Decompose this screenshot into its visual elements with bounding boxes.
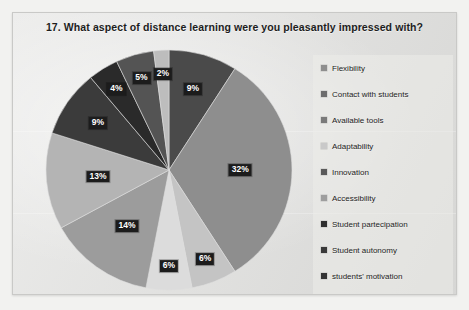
pie-data-label: 32% xyxy=(229,164,252,176)
legend-swatch-icon xyxy=(321,65,327,71)
pie-data-label: 14% xyxy=(116,220,139,232)
legend-swatch-icon xyxy=(321,273,327,279)
legend-item-label: Accessibility xyxy=(332,194,376,203)
pie-data-label: 9% xyxy=(89,117,107,129)
legend-swatch-icon xyxy=(321,195,327,201)
legend-item-label: Available tools xyxy=(332,116,383,125)
legend-item[interactable]: Adaptability xyxy=(313,133,453,159)
pie-data-label: 6% xyxy=(196,253,214,265)
pie-data-label: 4% xyxy=(107,83,125,95)
pie-chart xyxy=(41,46,303,294)
pie-svg xyxy=(41,46,303,294)
pie-data-label: 9% xyxy=(184,83,202,95)
legend-swatch-icon xyxy=(321,91,327,97)
legend-item[interactable]: Student partecipation xyxy=(313,211,453,237)
chart-frame: 17. What aspect of distance learning wer… xyxy=(12,12,457,295)
legend-item[interactable]: Student autonomy xyxy=(313,237,453,263)
legend-item-label: Innovation xyxy=(332,168,369,177)
legend-swatch-icon xyxy=(321,247,327,253)
legend-item[interactable]: Innovation xyxy=(313,159,453,185)
legend-swatch-icon xyxy=(321,221,327,227)
pie-plot-area: 9%32%6%6%14%13%9%4%5%2% xyxy=(41,46,309,294)
chart-title: 17. What aspect of distance learning wer… xyxy=(13,21,456,33)
legend-item[interactable]: Accessibility xyxy=(313,185,453,211)
legend-item[interactable]: Contact with students xyxy=(313,81,453,107)
pie-data-label: 6% xyxy=(160,260,178,272)
legend-item-label: students' motivation xyxy=(332,272,402,281)
legend-swatch-icon xyxy=(321,143,327,149)
legend-item-label: Contact with students xyxy=(332,90,408,99)
legend-item-label: Student partecipation xyxy=(332,220,408,229)
legend-item-label: Adaptability xyxy=(332,142,373,151)
pie-data-label: 13% xyxy=(86,171,109,183)
pie-data-label: 5% xyxy=(132,72,150,84)
legend-item[interactable]: Flexibility xyxy=(313,55,453,81)
legend-item-label: Flexibility xyxy=(332,64,365,73)
chart-legend: FlexibilityContact with studentsAvailabl… xyxy=(313,55,453,295)
legend-item[interactable]: Available tools xyxy=(313,107,453,133)
legend-item[interactable]: students' motivation xyxy=(313,263,453,289)
legend-item-label: Student autonomy xyxy=(332,246,397,255)
pie-data-label: 2% xyxy=(154,68,172,80)
legend-swatch-icon xyxy=(321,169,327,175)
legend-swatch-icon xyxy=(321,117,327,123)
